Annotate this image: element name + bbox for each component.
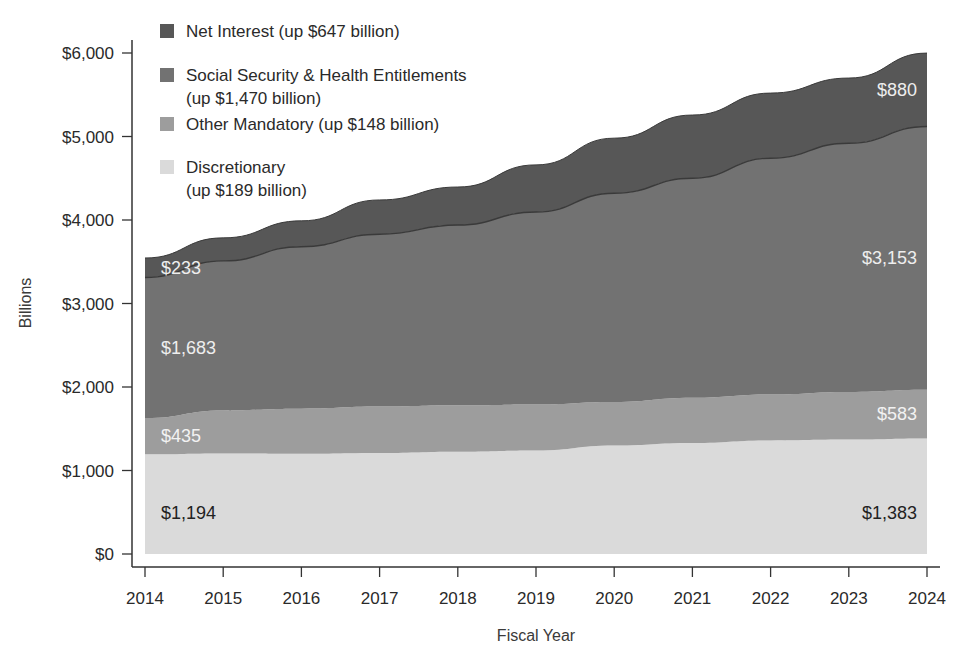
legend-label: Net Interest (up $647 billion) bbox=[186, 22, 400, 41]
x-tick-label: 2016 bbox=[282, 589, 320, 608]
x-tick-label: 2018 bbox=[439, 589, 477, 608]
x-tick-label: 2017 bbox=[361, 589, 399, 608]
legend-swatch-icon bbox=[160, 24, 174, 38]
data-label-net-interest-start: $233 bbox=[161, 258, 201, 278]
x-tick-label: 2015 bbox=[204, 589, 242, 608]
x-tick-label: 2021 bbox=[673, 589, 711, 608]
y-tick-label: $1,000 bbox=[62, 462, 114, 481]
x-tick-label: 2019 bbox=[517, 589, 555, 608]
legend-item-net-interest: Net Interest (up $647 billion) bbox=[160, 22, 400, 41]
x-tick-label: 2014 bbox=[126, 589, 164, 608]
legend-item-social-security-health-entitlements: Social Security & Health Entitlements(up… bbox=[160, 66, 467, 108]
data-label-net-interest-end: $880 bbox=[877, 80, 917, 100]
legend-label: (up $1,470 billion) bbox=[186, 89, 321, 108]
x-tick-label: 2024 bbox=[908, 589, 946, 608]
chart-canvas: $0$1,000$2,000$3,000$4,000$5,000$6,000 2… bbox=[0, 0, 964, 649]
legend-label: (up $189 billion) bbox=[186, 181, 307, 200]
y-axis-title: Billions bbox=[17, 278, 34, 329]
legend-label: Other Mandatory (up $148 billion) bbox=[186, 115, 439, 134]
legend: Net Interest (up $647 billion)Social Sec… bbox=[160, 22, 467, 200]
legend-item-other-mandatory: Other Mandatory (up $148 billion) bbox=[160, 115, 439, 134]
x-axis-ticks: 2014201520162017201820192020202120222023… bbox=[126, 567, 946, 608]
y-tick-label: $3,000 bbox=[62, 295, 114, 314]
legend-swatch-icon bbox=[160, 117, 174, 131]
y-tick-label: $6,000 bbox=[62, 44, 114, 63]
data-label-social-security-health-entitlements-end: $3,153 bbox=[862, 248, 917, 268]
area-discretionary bbox=[145, 439, 927, 554]
y-tick-label: $5,000 bbox=[62, 128, 114, 147]
data-label-other-mandatory-start: $435 bbox=[161, 426, 201, 446]
legend-label: Social Security & Health Entitlements bbox=[186, 66, 467, 85]
y-tick-label: $2,000 bbox=[62, 378, 114, 397]
stacked-area-chart: $0$1,000$2,000$3,000$4,000$5,000$6,000 2… bbox=[0, 0, 964, 649]
y-tick-label: $4,000 bbox=[62, 211, 114, 230]
x-axis-title: Fiscal Year bbox=[497, 627, 576, 644]
legend-swatch-icon bbox=[160, 68, 174, 82]
data-label-other-mandatory-end: $583 bbox=[877, 404, 917, 424]
legend-label: Discretionary bbox=[186, 158, 286, 177]
data-label-discretionary-end: $1,383 bbox=[862, 503, 917, 523]
legend-item-discretionary: Discretionary(up $189 billion) bbox=[160, 158, 307, 200]
y-axis-ticks: $0$1,000$2,000$3,000$4,000$5,000$6,000 bbox=[62, 44, 132, 564]
y-tick-label: $0 bbox=[95, 545, 114, 564]
data-label-discretionary-start: $1,194 bbox=[161, 503, 216, 523]
data-label-social-security-health-entitlements-start: $1,683 bbox=[161, 338, 216, 358]
legend-swatch-icon bbox=[160, 160, 174, 174]
x-tick-label: 2022 bbox=[752, 589, 790, 608]
x-tick-label: 2023 bbox=[830, 589, 868, 608]
x-tick-label: 2020 bbox=[595, 589, 633, 608]
